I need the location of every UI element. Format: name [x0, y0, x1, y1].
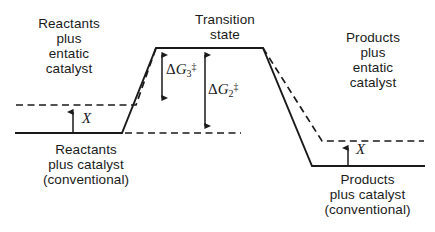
- label-products-plus-catalyst-conventional: Products plus catalyst (conventional): [300, 172, 435, 217]
- label-x-left: X: [82, 110, 91, 127]
- double-dagger-icon: ‡: [192, 61, 197, 72]
- delta-symbol: Δ: [166, 61, 176, 77]
- label-products-plus-entatic-catalyst: Products plus entatic catalyst: [318, 30, 428, 90]
- label-reactants-plus-entatic-catalyst: Reactants plus entatic catalyst: [10, 16, 128, 76]
- g-symbol: G: [218, 81, 229, 97]
- energy-diagram-figure: Reactants plus entatic catalyst Transiti…: [0, 0, 435, 232]
- label-x-right: X: [356, 141, 365, 158]
- label-delta-g2-activation: ΔG2‡: [208, 81, 239, 99]
- double-dagger-icon: ‡: [234, 81, 239, 92]
- label-transition-state: Transition state: [166, 12, 284, 42]
- delta-symbol: Δ: [208, 81, 218, 97]
- label-delta-g3-activation: ΔG3‡: [166, 61, 197, 79]
- g-symbol: G: [176, 61, 187, 77]
- label-reactants-plus-catalyst-conventional: Reactants plus catalyst (conventional): [6, 142, 166, 187]
